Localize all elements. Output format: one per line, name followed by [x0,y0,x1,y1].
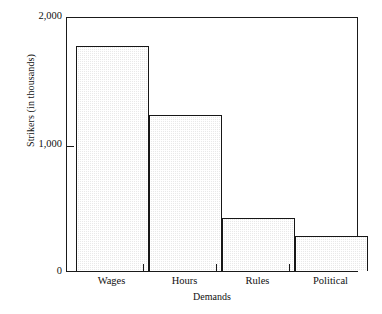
x-tick-label-political: Political [294,275,367,286]
x-tick-label-rules: Rules [221,275,294,286]
bar-hours [149,115,222,271]
bar-chart-figure: Strikers (in thousands) 2,000 1,000 0 Wa… [0,0,382,314]
bar-rules [222,218,295,271]
plot-area [66,17,358,272]
x-tick-mark-1 [143,264,144,271]
y-tick-mark-1000 [67,146,74,147]
y-tick-label-2000: 2,000 [18,10,62,21]
x-tick-label-hours: Hours [148,275,221,286]
bar-political [295,236,368,271]
y-tick-label-0: 0 [18,265,62,276]
x-axis-title: Demands [66,291,358,302]
y-tick-label-1000: 1,000 [18,138,62,149]
x-axis-tick-labels: WagesHoursRulesPolitical [66,275,358,291]
x-tick-mark-3 [289,264,290,271]
plot-inner-area [67,18,357,271]
x-tick-mark-2 [216,264,217,271]
bar-wages [76,46,149,271]
x-tick-label-wages: Wages [75,275,148,286]
y-axis-tick-labels: 2,000 1,000 0 [14,0,62,314]
